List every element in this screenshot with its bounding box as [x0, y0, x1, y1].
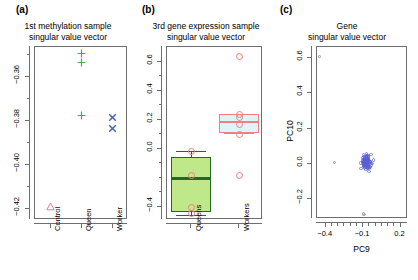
- panel-b-tag: (b): [142, 4, 155, 15]
- panel-a-title-line2: singular value vector: [0, 32, 136, 43]
- panel-c-tag: (c): [280, 4, 292, 15]
- panel-c-y-axis-line: [311, 46, 312, 218]
- boxplot-point: [236, 114, 243, 121]
- panel-c-x-minor-tick: [343, 223, 344, 226]
- panel-c-x-tick: [325, 223, 326, 227]
- panel-a-x-tick-label: Control: [53, 207, 62, 231]
- panel-c-y-tick: [307, 163, 311, 164]
- panel-b-x-tick: [190, 224, 191, 228]
- panel-c-x-minor-tick: [381, 223, 382, 226]
- panel-a-x-tick-label: Worker: [115, 207, 124, 231]
- scatter-outlier-point: [363, 213, 366, 216]
- panel-b-title: 3rd gene expression sample singular valu…: [136, 21, 276, 43]
- data-point-worker: [108, 113, 117, 122]
- panel-b-y-minor-tick: [159, 191, 162, 192]
- panel-b: (b) 3rd gene expression sample singular …: [136, 0, 276, 280]
- panel-b-title-line2: singular value vector: [136, 32, 276, 43]
- panel-c-y-tick: [307, 198, 311, 199]
- panel-c-x-minor-tick: [350, 223, 351, 226]
- panel-a-y-minor-tick: [27, 98, 30, 99]
- panel-c-y-tick: [307, 128, 311, 129]
- panel-b-y-minor-tick: [159, 104, 162, 105]
- panel-a-y-tick: [25, 120, 29, 121]
- panel-a-y-minor-tick: [27, 142, 30, 143]
- panel-a-x-tick-label: Queen: [84, 208, 93, 231]
- scatter-point: [369, 153, 372, 156]
- panel-a-y-tick-label: −0.36: [12, 60, 21, 88]
- panel-c-x-minor-tick: [337, 223, 338, 226]
- panel-b-y-tick-label: 0.0: [145, 133, 154, 159]
- scatter-outlier-point: [333, 161, 336, 164]
- panel-b-y-tick-label: 0.6: [145, 46, 154, 72]
- panel-c-x-tick-label: 0.2: [382, 229, 418, 238]
- panel-a-y-tick-label: −0.40: [12, 148, 21, 176]
- panel-a-y-tick: [25, 208, 29, 209]
- panel-b-y-minor-tick: [159, 177, 162, 178]
- figure-root: (a) 1st methylation sample singular valu…: [0, 0, 418, 280]
- panel-b-y-minor-tick: [159, 75, 162, 76]
- panel-b-y-axis-line: [161, 46, 162, 219]
- boxplot-point: [236, 53, 243, 60]
- data-point-worker: [108, 124, 117, 133]
- panel-c-x-tick-label: −0.4: [307, 229, 343, 238]
- panel-c-x-minor-tick: [368, 223, 369, 226]
- panel-b-x-tick-label: Queens: [194, 205, 203, 231]
- data-point-queen: [77, 111, 86, 120]
- scatter-point: [361, 161, 364, 164]
- panel-a-title-line1: 1st methylation sample: [0, 21, 136, 32]
- boxplot-point: [236, 172, 243, 179]
- scatter-point: [372, 158, 375, 161]
- panel-c-x-minor-tick: [356, 223, 357, 226]
- panel-b-y-tick-label: 0.4: [145, 75, 154, 101]
- panel-a-plot-area: [34, 46, 127, 219]
- panel-c-y-tick: [307, 57, 311, 58]
- panel-a-y-tick-label: −0.38: [12, 104, 21, 132]
- boxplot-point: [236, 121, 243, 128]
- panel-b-y-tick: [157, 119, 161, 120]
- panel-c-y-tick-label: 0.4: [295, 78, 304, 104]
- panel-c-y-tick-label: 0.2: [295, 113, 304, 139]
- panel-b-x-tick-label: Workers: [242, 203, 251, 231]
- panel-c-x-tick: [362, 223, 363, 227]
- panel-b-plot-area: [166, 46, 262, 219]
- panel-c-xlabel: PC9: [348, 244, 376, 254]
- panel-a-x-tick: [50, 224, 51, 228]
- panel-c-plot-area: [316, 46, 407, 218]
- panel-c-x-minor-tick: [387, 223, 388, 226]
- panel-c-x-tick: [400, 223, 401, 227]
- panel-c-y-tick-label: 0.6: [295, 42, 304, 68]
- scatter-point: [367, 170, 370, 173]
- panel-b-y-tick: [157, 206, 161, 207]
- panel-b-y-tick: [157, 90, 161, 91]
- data-point-queen: [77, 58, 86, 67]
- panel-c-y-tick: [307, 92, 311, 93]
- panel-c: (c) Gene singular value vector 0.60.40.2…: [276, 0, 418, 280]
- panel-a-x-tick: [112, 224, 113, 228]
- panel-c-title: Gene singular value vector: [276, 21, 418, 43]
- panel-b-y-tick-label: −0.4: [145, 191, 154, 217]
- panel-c-title-line1: Gene: [276, 21, 418, 32]
- boxplot-point: [236, 131, 243, 138]
- panel-a-y-minor-tick: [27, 54, 30, 55]
- boxplot-point: [188, 172, 195, 179]
- scatter-outlier-point: [318, 55, 321, 58]
- panel-b-y-tick: [157, 148, 161, 149]
- panel-a-y-minor-tick: [27, 186, 30, 187]
- panel-b-y-minor-tick: [159, 133, 162, 134]
- panel-a-tag: (a): [16, 4, 28, 15]
- panel-a-y-axis-line: [29, 46, 30, 219]
- panel-a-y-tick: [25, 76, 29, 77]
- panel-b-x-tick: [238, 224, 239, 228]
- panel-c-title-line2: singular value vector: [276, 32, 418, 43]
- panel-c-ylabel: PC10: [285, 111, 295, 151]
- panel-a-x-tick: [81, 224, 82, 228]
- panel-a-title: 1st methylation sample singular value ve…: [0, 21, 136, 43]
- panel-b-title-line1: 3rd gene expression sample: [136, 21, 276, 32]
- panel-a-y-tick: [25, 164, 29, 165]
- data-point-queen: [77, 49, 86, 58]
- panel-c-x-minor-tick: [375, 223, 376, 226]
- boxplot-point: [188, 148, 195, 155]
- panel-c-x-tick-label: −0.1: [344, 229, 380, 238]
- scatter-point: [362, 155, 365, 158]
- panel-b-y-tick-label: 0.2: [145, 104, 154, 130]
